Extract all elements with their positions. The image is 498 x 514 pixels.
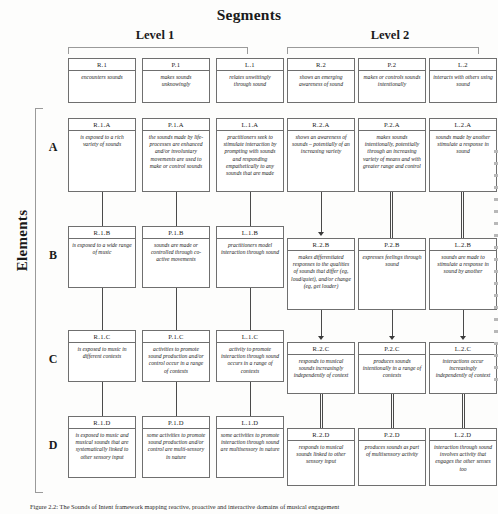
cell-code: R.1.D	[69, 417, 135, 429]
cell-text: interactions occur increasingly independ…	[430, 355, 496, 393]
cell-l2a[interactable]: L.2.A sounds made by another stimulate a…	[429, 118, 497, 192]
cell-text: some activities to promote sound product…	[143, 429, 209, 477]
level-2-bracket	[287, 47, 479, 54]
connector-l2b-l2c	[463, 310, 464, 337]
header-box-r1[interactable]: R.1 encounters sounds	[68, 58, 136, 103]
cell-text: activity to promote interaction through …	[217, 343, 283, 381]
level-1-bracket	[68, 47, 248, 54]
header-box-p2[interactable]: P.2 makes or controls sounds intentional…	[358, 58, 426, 103]
cell-text: shows an awareness of sounds – potential…	[288, 131, 354, 191]
header-code: P.2	[359, 59, 425, 71]
arrowhead-r2c	[318, 336, 324, 340]
level-1-title: Level 1	[95, 28, 215, 43]
header-text: interacts with others using sound	[430, 71, 496, 102]
cell-l1b[interactable]: L.1.B practitioners model interaction th…	[216, 226, 284, 288]
cell-p1c[interactable]: P.1.C activities to promote sound produc…	[142, 330, 210, 382]
cell-p1a[interactable]: P.1.A the sounds made by life-processes …	[142, 118, 210, 192]
cell-code: P.1.C	[143, 331, 209, 343]
cell-code: L.1.C	[217, 331, 283, 343]
cell-r1b[interactable]: R.1.B is exposed to a wide range of musi…	[68, 226, 136, 288]
cell-code: L.1.A	[217, 119, 283, 131]
cell-code: R.2.A	[288, 119, 354, 131]
page-edge-marks	[494, 150, 498, 450]
elements-bracket	[35, 108, 43, 493]
cell-code: P.2.C	[359, 343, 425, 355]
header-box-p1[interactable]: P.1 makes sounds unknowingly	[142, 58, 210, 103]
row-letter-d: D	[45, 438, 61, 453]
connector-l1c-l1d	[250, 382, 251, 416]
cell-text: sounds are made to stimulate a response …	[430, 251, 496, 309]
connector-l1b-l1c	[250, 288, 251, 330]
cell-l2b[interactable]: L.2.B sounds are made to stimulate a res…	[429, 238, 497, 310]
cell-r1a[interactable]: R.1.A is exposed to a rich variety of so…	[68, 118, 136, 192]
cell-code: R.2.D	[288, 429, 354, 441]
header-box-r2[interactable]: R.2 shows an emerging awareness of sound	[287, 58, 355, 103]
cell-code: L.2.C	[430, 343, 496, 355]
connector-l2a-l2b	[461, 192, 464, 238]
cell-l1d[interactable]: L.1.D some activities to promote interac…	[216, 416, 284, 478]
cell-p1b[interactable]: P.1.B sounds are made or controlled thro…	[142, 226, 210, 288]
header-code: R.1	[69, 59, 135, 71]
cell-code: P.1.D	[143, 417, 209, 429]
cell-text: the sounds made by life-processes are en…	[143, 131, 209, 191]
connector-l1a-l1b	[250, 192, 251, 226]
cell-text: makes differentiated responses to the qu…	[288, 251, 354, 309]
cell-r1c[interactable]: R.1.C is exposed to music in different c…	[68, 330, 136, 382]
cell-l2c[interactable]: L.2.C interactions occur increasingly in…	[429, 342, 497, 394]
cell-code: R.1.A	[69, 119, 135, 131]
header-code: P.1	[143, 59, 209, 71]
cell-code: L.2.D	[430, 429, 496, 441]
cell-p2c[interactable]: P.2.C produces sounds intentionally in a…	[358, 342, 426, 394]
cell-p2a[interactable]: P.2.A makes sounds intentionally, potent…	[358, 118, 426, 192]
cell-code: L.1.D	[217, 417, 283, 429]
connector-r1c-r1d	[102, 382, 103, 416]
header-text: makes or controls sounds intentionally	[359, 71, 425, 102]
cell-l2d[interactable]: L.2.D interaction through sound involves…	[429, 428, 497, 486]
cell-p2b[interactable]: P.2.B expresses feelings through sound	[358, 238, 426, 310]
connector-r2b-r2c	[321, 310, 322, 337]
cell-text: practitioners model interaction through …	[217, 239, 283, 287]
header-box-l1[interactable]: L.1 relates unwittingly through sound	[216, 58, 284, 103]
connector-p2b-p2c	[392, 310, 393, 337]
cell-p1d[interactable]: P.1.D some activities to promote sound p…	[142, 416, 210, 478]
cell-code: R.2.B	[288, 239, 354, 251]
connector-r2c-r2d	[320, 394, 323, 428]
cell-r1d[interactable]: R.1.D is exposed to music and musical so…	[68, 416, 136, 478]
header-box-l2[interactable]: L.2 interacts with others using sound	[429, 58, 497, 103]
row-letter-a: A	[45, 140, 61, 155]
header-text: shows an emerging awareness of sound	[288, 71, 354, 102]
cell-l1a[interactable]: L.1.A practitioners seek to stimulate in…	[216, 118, 284, 192]
cell-code: P.1.A	[143, 119, 209, 131]
cell-code: L.2.A	[430, 119, 496, 131]
cell-text: responds to musical sounds increasingly …	[288, 355, 354, 393]
cell-code: L.1.B	[217, 227, 283, 239]
cell-r2a[interactable]: R.2.A shows an awareness of sounds – pot…	[287, 118, 355, 192]
connector-p1c-p1d	[176, 382, 177, 416]
figure-caption: Figure 2.2: The Sounds of Intent framewo…	[30, 503, 339, 510]
header-code: R.2	[288, 59, 354, 71]
connector-p2a-p2b	[390, 192, 393, 238]
cell-l1c[interactable]: L.1.C activity to promote interaction th…	[216, 330, 284, 382]
cell-r2c[interactable]: R.2.C responds to musical sounds increas…	[287, 342, 355, 394]
header-text: makes sounds unknowingly	[143, 71, 209, 102]
cell-text: produces sounds intentionally in a range…	[359, 355, 425, 393]
cell-p2d[interactable]: P.2.D produces sounds as part of multise…	[358, 428, 426, 486]
cell-text: is exposed to a wide range of music	[69, 239, 135, 287]
cell-text: interaction through sound involves activ…	[430, 441, 496, 485]
cell-code: R.2.C	[288, 343, 354, 355]
cell-text: is exposed to music and musical sounds t…	[69, 429, 135, 477]
level-2-title: Level 2	[330, 28, 450, 43]
cell-r2d[interactable]: R.2.D responds to musical sounds linked …	[287, 428, 355, 486]
cell-text: some activities to promote interaction t…	[217, 429, 283, 477]
connector-r1a-r1b	[102, 192, 103, 226]
arrowhead-r2b	[318, 232, 324, 236]
connector-p1a-p1b	[176, 192, 177, 226]
cell-code: P.2.B	[359, 239, 425, 251]
segments-title: Segments	[0, 6, 498, 24]
cell-code: P.2.A	[359, 119, 425, 131]
cell-code: R.1.C	[69, 331, 135, 343]
cell-text: practitioners seek to stimulate interact…	[217, 131, 283, 191]
diagram-canvas: Segments Level 1 Level 2 Elements R.1 en…	[0, 0, 498, 514]
cell-r2b[interactable]: R.2.B makes differentiated responses to …	[287, 238, 355, 310]
connector-p1b-p1c	[176, 288, 177, 330]
